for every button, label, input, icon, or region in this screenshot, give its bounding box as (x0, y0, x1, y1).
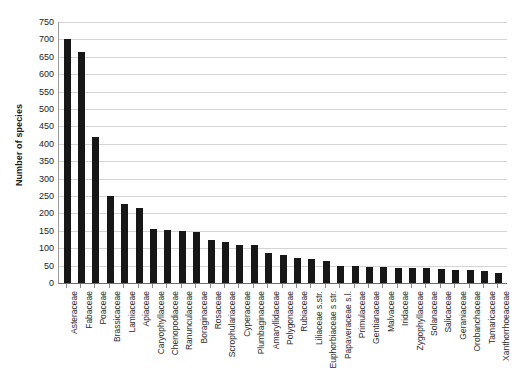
bar-slot (319, 22, 333, 283)
bar[interactable] (352, 266, 359, 283)
x-label-slot: Amaryllidaceae (260, 289, 274, 389)
x-tick-slot (189, 284, 203, 288)
x-label-slot: Scrophulariaceae (217, 289, 231, 389)
x-label-slot: Apiaceae (131, 289, 145, 389)
x-tick-mark (138, 284, 139, 288)
bar-slot (420, 22, 434, 283)
bar[interactable] (179, 231, 186, 283)
x-tick-slot (448, 284, 462, 288)
x-tick-mark (325, 284, 326, 288)
bar[interactable] (294, 258, 301, 283)
x-label-slot: Polygonaceae (275, 289, 289, 389)
x-tick-mark (238, 284, 239, 288)
x-tick-slot (145, 284, 159, 288)
x-tick-mark (253, 284, 254, 288)
x-tick-slot (304, 284, 318, 288)
x-tick-mark (210, 284, 211, 288)
x-tick-mark (282, 284, 283, 288)
bar[interactable] (308, 259, 315, 283)
bar-slot (492, 22, 506, 283)
y-tick-label: 600 (28, 70, 54, 79)
bar[interactable] (280, 255, 287, 283)
bar[interactable] (366, 267, 373, 283)
bar-slot (405, 22, 419, 283)
x-tick-mark (469, 284, 470, 288)
bar-slot (333, 22, 347, 283)
x-label-slot: Rosaceae (203, 289, 217, 389)
x-tick-slot (88, 284, 102, 288)
bar[interactable] (92, 137, 99, 283)
x-label-slot: Tamaricaceae (476, 289, 490, 389)
x-tick-slot (59, 284, 73, 288)
bar[interactable] (222, 242, 229, 283)
x-label-slot: Solanaceae (419, 289, 433, 389)
y-tick-label: 300 (28, 174, 54, 183)
x-label-slot: Papaveraceae s.l. (332, 289, 346, 389)
bar[interactable] (452, 270, 459, 283)
x-label-slot: Zygophyllaceae (404, 289, 418, 389)
bar[interactable] (409, 268, 416, 283)
x-tick-mark (497, 284, 498, 288)
x-tick-slot (73, 284, 87, 288)
y-tick-label: 200 (28, 209, 54, 218)
x-tick-mark (224, 284, 225, 288)
bar[interactable] (438, 269, 445, 283)
bar[interactable] (136, 208, 143, 283)
x-tick-mark (368, 284, 369, 288)
x-tick-slot (332, 284, 346, 288)
bar-slot (190, 22, 204, 283)
bar[interactable] (481, 271, 488, 283)
x-tick-mark (339, 284, 340, 288)
bar[interactable] (265, 253, 272, 283)
x-tick-slot (174, 284, 188, 288)
x-label-slot: Plumbaginaceae (246, 289, 260, 389)
bar[interactable] (380, 267, 387, 283)
plot-area (58, 22, 507, 284)
x-tick-mark (454, 284, 455, 288)
bar[interactable] (150, 229, 157, 283)
bar[interactable] (164, 230, 171, 283)
x-label-slot: Gentianaceae (361, 289, 375, 389)
x-tick-slot (404, 284, 418, 288)
bar[interactable] (467, 270, 474, 283)
x-tick-slot (462, 284, 476, 288)
x-tick-mark (66, 284, 67, 288)
bar[interactable] (323, 261, 330, 283)
x-label-slot: Boraginaceae (189, 289, 203, 389)
bar-slot (161, 22, 175, 283)
y-tick-label: 150 (28, 226, 54, 235)
x-label-slot: Primulaceae (347, 289, 361, 389)
bar[interactable] (193, 232, 200, 284)
y-tick-label: 50 (28, 261, 54, 270)
y-tick-label: 700 (28, 35, 54, 44)
bar[interactable] (251, 245, 258, 283)
bar-slot (204, 22, 218, 283)
bar[interactable] (395, 268, 402, 283)
x-label-slot: Brassicaceae (102, 289, 116, 389)
x-tick-mark (382, 284, 383, 288)
bar[interactable] (64, 39, 71, 283)
bar[interactable] (236, 245, 243, 283)
bar-slot (103, 22, 117, 283)
x-tick-slot (433, 284, 447, 288)
bar[interactable] (495, 273, 502, 283)
bar[interactable] (78, 52, 85, 283)
bar[interactable] (121, 204, 128, 283)
bar-slot (290, 22, 304, 283)
y-tick-label: 350 (28, 157, 54, 166)
x-label-slot: Chenopodiaceae (160, 289, 174, 389)
x-tick-slot (117, 284, 131, 288)
y-tick-label: 100 (28, 244, 54, 253)
x-label-slot: Lamiaceae (117, 289, 131, 389)
x-tick-slot (361, 284, 375, 288)
bar-slot (477, 22, 491, 283)
bar[interactable] (337, 266, 344, 283)
bar-slot (348, 22, 362, 283)
x-tick-mark (411, 284, 412, 288)
bar[interactable] (208, 240, 215, 284)
bar[interactable] (107, 196, 114, 283)
bar[interactable] (423, 268, 430, 283)
bar-slot (175, 22, 189, 283)
y-tick-label: 650 (28, 52, 54, 61)
x-tick-slot (376, 284, 390, 288)
